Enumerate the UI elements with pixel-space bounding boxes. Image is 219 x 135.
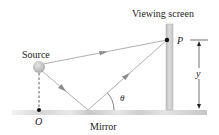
angle-theta-label: θ — [120, 93, 125, 103]
distance-y-label: y — [195, 68, 201, 79]
lloyds-mirror-diagram: Source Viewing screen P O Mirror θ y — [0, 0, 219, 135]
y-dimension-down-arrow-icon — [197, 104, 201, 109]
source-sphere — [33, 61, 45, 73]
angle-arc — [108, 93, 115, 110]
mirror-label: Mirror — [90, 121, 117, 132]
mirror-surface — [12, 110, 207, 115]
direct-ray-arrow-icon — [99, 51, 108, 55]
y-dimension-up-arrow-icon — [197, 41, 201, 46]
point-o-label: O — [35, 116, 42, 127]
point-p-label: P — [176, 35, 183, 46]
point-p-dot — [165, 38, 169, 42]
point-o-dot — [37, 108, 41, 112]
screen-label: Viewing screen — [132, 8, 194, 19]
source-label: Source — [22, 49, 50, 60]
viewing-screen — [166, 24, 173, 110]
